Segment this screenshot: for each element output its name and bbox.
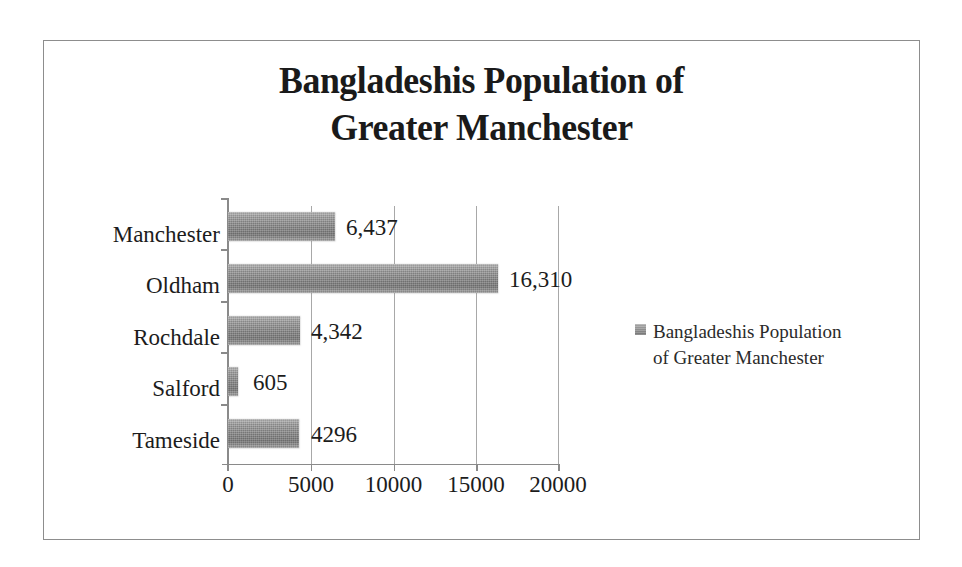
bar-tameside[interactable] [228,419,299,448]
x-tick-15000 [476,464,478,471]
x-tick-label-5000: 5000 [288,473,334,496]
bar-value-manchester: 6,437 [346,216,398,239]
x-tick-label-10000: 10000 [365,473,423,496]
x-tick-20000 [558,464,560,471]
x-tick-label-20000: 20000 [529,473,587,496]
x-tick-0 [227,464,229,471]
bar-value-tameside: 4296 [311,423,357,446]
y-tick-4 [221,404,228,406]
y-tick-0 [221,198,228,200]
bar-manchester[interactable] [228,212,335,241]
bar-rochdale[interactable] [228,316,300,345]
x-tick-5000 [311,464,313,471]
x-axis-line [222,464,560,466]
bar-row-salford: 605 [228,367,559,396]
category-label-tameside: Tameside [132,429,220,452]
legend-label: Bangladeshis Population of Greater Manch… [653,319,843,371]
chart-frame: Bangladeshis Population of Greater Manch… [43,40,920,540]
x-tick-10000 [394,464,396,471]
category-label-salford: Salford [152,377,220,400]
plot-area: 6,437 16,310 4,342 605 4296 [228,206,559,464]
category-label-manchester: Manchester [113,223,220,246]
x-axis-tick-labels: 0 5000 10000 15000 20000 [228,473,559,507]
bar-row-oldham: 16,310 [228,264,559,293]
chart-title: Bangladeshis Population of Greater Manch… [70,57,893,151]
chart-legend[interactable]: Bangladeshis Population of Greater Manch… [635,319,865,371]
y-tick-1 [221,249,228,251]
legend-swatch-icon [635,324,646,335]
bar-oldham[interactable] [228,264,498,293]
y-tick-2 [221,301,228,303]
x-tick-label-0: 0 [222,473,234,496]
bar-salford[interactable] [228,367,238,396]
bar-row-manchester: 6,437 [228,212,559,241]
y-tick-3 [221,352,228,354]
x-tick-label-15000: 15000 [447,473,505,496]
bar-row-rochdale: 4,342 [228,316,559,345]
bar-value-rochdale: 4,342 [311,320,363,343]
bar-value-oldham: 16,310 [509,268,572,291]
category-axis: Manchester Oldham Rochdale Salford Tames… [44,206,220,464]
category-label-rochdale: Rochdale [133,326,220,349]
bar-row-tameside: 4296 [228,419,559,448]
bar-value-salford: 605 [253,371,288,394]
category-label-oldham: Oldham [146,274,220,297]
